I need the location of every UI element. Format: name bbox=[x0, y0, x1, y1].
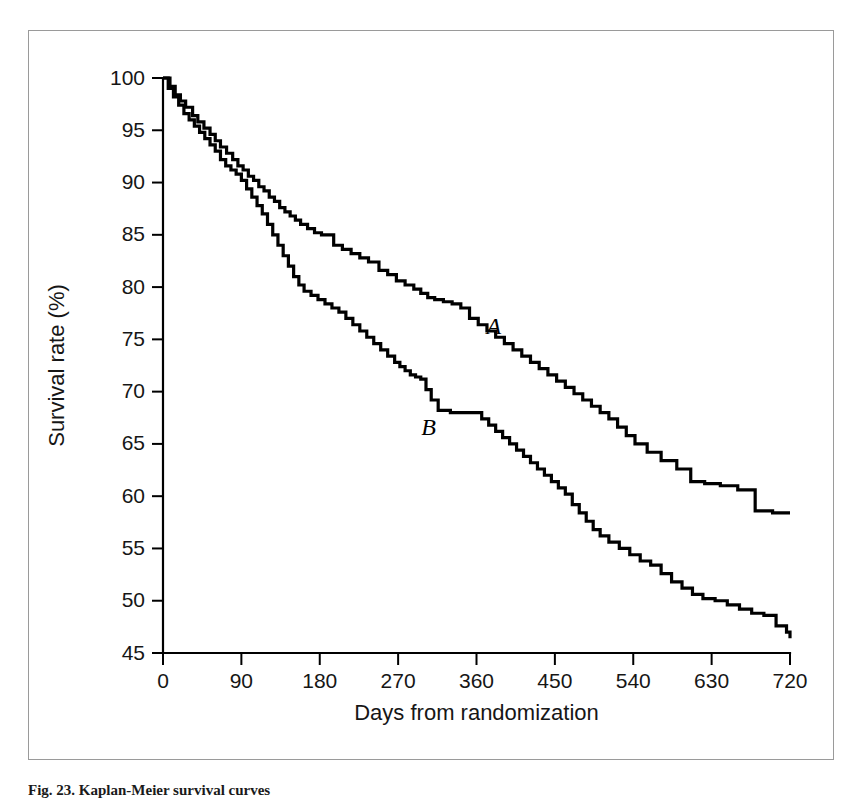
y-tick-label: 45 bbox=[122, 641, 145, 664]
survival-curve-a bbox=[163, 78, 790, 513]
x-axis-tick-labels: 090180270360450540630720 bbox=[157, 669, 807, 692]
y-tick-label: 65 bbox=[122, 431, 145, 454]
x-tick-label: 180 bbox=[302, 669, 337, 692]
figure-container: 4550556065707580859095100 09018027036045… bbox=[0, 0, 860, 800]
y-tick-label: 100 bbox=[110, 66, 145, 89]
y-tick-label: 80 bbox=[122, 275, 145, 298]
survival-curve-b bbox=[163, 78, 790, 638]
x-axis-tick-marks bbox=[163, 653, 790, 665]
x-axis-title: Days from randomization bbox=[354, 700, 599, 725]
x-tick-label: 720 bbox=[772, 669, 807, 692]
y-axis-title: Survival rate (%) bbox=[44, 284, 69, 447]
x-tick-label: 90 bbox=[230, 669, 253, 692]
y-tick-label: 55 bbox=[122, 536, 145, 559]
x-tick-label: 360 bbox=[459, 669, 494, 692]
x-tick-label: 0 bbox=[157, 669, 169, 692]
y-axis-tick-marks bbox=[152, 78, 163, 653]
x-tick-label: 450 bbox=[537, 669, 572, 692]
x-tick-label: 630 bbox=[694, 669, 729, 692]
figure-caption: Fig. 23. Kaplan-Meier survival curves bbox=[28, 781, 828, 800]
y-axis-tick-labels: 4550556065707580859095100 bbox=[110, 66, 145, 664]
y-tick-label: 60 bbox=[122, 484, 145, 507]
y-tick-label: 50 bbox=[122, 588, 145, 611]
x-tick-label: 270 bbox=[381, 669, 416, 692]
curve-a-label: A bbox=[485, 313, 502, 339]
y-tick-label: 75 bbox=[122, 327, 145, 350]
y-tick-label: 70 bbox=[122, 379, 145, 402]
y-tick-label: 90 bbox=[122, 170, 145, 193]
y-tick-label: 85 bbox=[122, 222, 145, 245]
survival-chart: 4550556065707580859095100 09018027036045… bbox=[0, 0, 860, 800]
y-tick-label: 95 bbox=[122, 118, 145, 141]
curve-b-label: B bbox=[421, 414, 436, 440]
x-tick-label: 540 bbox=[616, 669, 651, 692]
